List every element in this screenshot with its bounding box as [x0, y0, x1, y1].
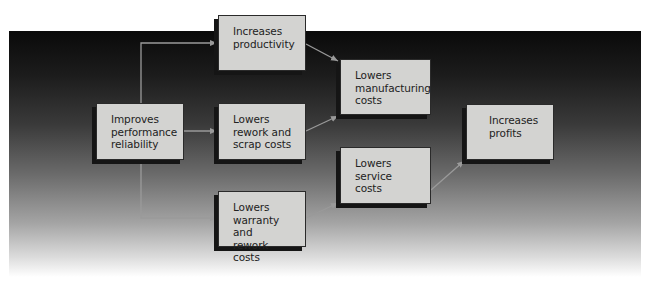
node-label: Lowers rework and scrap costs — [233, 113, 295, 151]
node-label: Increases productivity — [233, 25, 295, 50]
node-lowers-warranty-rework-costs: Lowers warranty and rework costs — [218, 191, 306, 247]
node-label: Increases profits — [489, 114, 543, 139]
node-label: Lowers manufacturing costs — [355, 69, 420, 107]
node-label: Lowers warranty and rework costs — [233, 201, 295, 264]
node-label: Improves performance reliability — [111, 113, 173, 151]
node-label: Lowers service costs — [355, 157, 420, 195]
node-lowers-rework-scrap-costs: Lowers rework and scrap costs — [218, 103, 306, 160]
node-lowers-service-costs: Lowers service costs — [340, 147, 431, 204]
node-lowers-manufacturing-costs: Lowers manufacturing costs — [340, 59, 431, 115]
node-increases-profits: Increases profits — [466, 104, 554, 160]
node-improves-performance-reliability: Improves performance reliability — [96, 103, 184, 160]
node-increases-productivity: Increases productivity — [218, 15, 306, 71]
